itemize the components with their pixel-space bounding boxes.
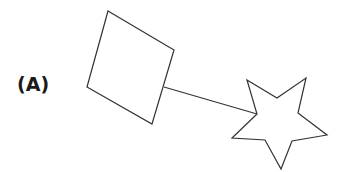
connector-line bbox=[164, 87, 257, 114]
star-shape bbox=[232, 78, 327, 169]
square-shape bbox=[87, 11, 174, 124]
diagram-canvas bbox=[0, 0, 345, 172]
